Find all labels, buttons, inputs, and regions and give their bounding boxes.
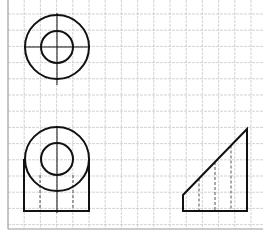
drawing-canvas xyxy=(0,0,263,236)
orthographic-drawing xyxy=(0,0,263,236)
background xyxy=(0,0,263,236)
